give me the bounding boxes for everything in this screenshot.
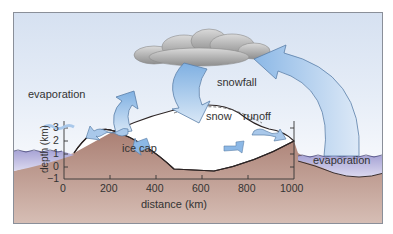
x-tick-0: 0 <box>60 183 66 194</box>
y-tick-1: 1 <box>53 148 59 159</box>
evaporation-left-label: evaporation <box>28 89 86 100</box>
x-tick-400: 400 <box>146 183 164 194</box>
x-tick-600: 600 <box>192 183 210 194</box>
y-axis-label: depth (km) <box>39 125 50 173</box>
x-tick-800: 800 <box>238 183 256 194</box>
snow-label: snow <box>206 111 232 122</box>
snowfall-label: snowfall <box>217 77 257 88</box>
ice-cap-label: ice cap <box>122 143 157 154</box>
evaporation-right-label: evaporation <box>313 155 371 166</box>
runoff-label: runoff <box>243 111 271 122</box>
x-tick-200: 200 <box>100 183 118 194</box>
y-tick-3: 3 <box>53 122 59 133</box>
y-tick-minus1: −1 <box>47 173 59 184</box>
diagram-frame: evaporation snowfall snow runoff ice cap… <box>13 12 383 224</box>
x-axis-label: distance (km) <box>141 199 207 210</box>
cloud-icon <box>134 29 270 66</box>
y-tick-2: 2 <box>53 135 59 146</box>
y-tick-0: 0 <box>53 161 59 172</box>
x-tick-1000: 1000 <box>280 183 303 194</box>
